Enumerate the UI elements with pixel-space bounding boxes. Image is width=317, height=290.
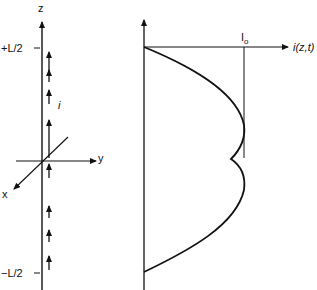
current-distribution-curve <box>144 47 244 272</box>
x-axis-label: x <box>2 189 8 200</box>
peak-current-label: Io <box>241 32 249 46</box>
bottom-end-label: −L/2 <box>1 268 23 279</box>
top-end-label: +L/2 <box>1 43 23 54</box>
z-axis-label: z <box>38 3 44 14</box>
y-axis-label: y <box>98 153 104 164</box>
current-label: i <box>58 100 60 111</box>
diagram-graphics <box>0 0 317 290</box>
x-axis <box>14 137 68 189</box>
current-axis-label: i(z,t) <box>293 42 314 53</box>
dipole-current-diagram: z y x +L/2 −L/2 i Io i(z,t) <box>0 0 317 290</box>
